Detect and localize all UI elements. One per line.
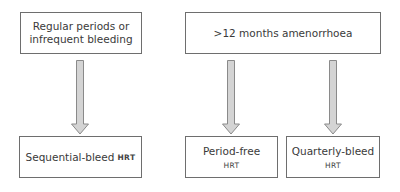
box-period-free-label: Period-free bbox=[203, 145, 260, 158]
box-sequential-bleed-label: Sequential-bleed bbox=[26, 151, 115, 164]
box-amenorrhoea: >12 months amenorrhoea bbox=[185, 12, 381, 54]
box-quarterly-bleed-label: Quarterly-bleed bbox=[292, 145, 374, 158]
box-sequential-bleed-suffix: HRT bbox=[117, 153, 135, 162]
box-regular-periods-line1: Regular periods or bbox=[33, 20, 130, 33]
box-regular-periods-line2: infrequent bleeding bbox=[29, 33, 132, 46]
arrow-down-icon bbox=[221, 60, 241, 136]
box-sequential-bleed-hrt: Sequential-bleed HRT bbox=[19, 136, 142, 178]
box-quarterly-bleed-suffix: HRT bbox=[325, 161, 341, 170]
box-period-free-suffix: HRT bbox=[223, 161, 239, 170]
box-amenorrhoea-label: >12 months amenorrhoea bbox=[214, 27, 353, 40]
box-quarterly-bleed-hrt: Quarterly-bleed HRT bbox=[286, 136, 380, 178]
arrow-down-icon bbox=[70, 60, 90, 136]
arrow-down-icon bbox=[323, 60, 343, 136]
box-period-free-hrt: Period-free HRT bbox=[185, 136, 278, 178]
box-regular-periods: Regular periods or infrequent bleeding bbox=[20, 12, 142, 54]
